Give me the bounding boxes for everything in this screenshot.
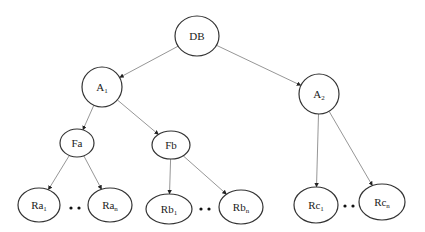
edge-a1-to-fa bbox=[83, 105, 94, 130]
node-rb1: Rb1 bbox=[146, 194, 192, 224]
ellipsis-dot bbox=[351, 204, 354, 207]
node-ra1: Ra1 bbox=[18, 188, 60, 222]
node-rc1: Rc1 bbox=[294, 187, 338, 223]
edge-fb-to-rb1 bbox=[170, 159, 171, 194]
node-db: DB bbox=[175, 16, 219, 56]
node-label: Fa bbox=[72, 137, 83, 149]
node-a1: A1 bbox=[82, 67, 122, 107]
ellipsis-dot bbox=[343, 204, 346, 207]
edge-a1-to-fb bbox=[117, 100, 158, 135]
node-label: DB bbox=[189, 30, 204, 42]
edge-fa-to-ran bbox=[84, 156, 102, 190]
node-fb: Fb bbox=[152, 131, 190, 159]
ellipsis-dot bbox=[69, 206, 72, 209]
edge-a2-to-rcn bbox=[329, 111, 372, 185]
nodes-layer: DBA1A2FaFbRa1RanRb1RbnRc1Rcn bbox=[18, 16, 405, 224]
edge-a2-to-rc1 bbox=[317, 114, 319, 187]
node-rbn: Rbn bbox=[219, 190, 263, 224]
ellipsis-dot bbox=[77, 206, 80, 209]
node-label: Fb bbox=[165, 139, 177, 151]
edge-db-to-a2 bbox=[217, 45, 301, 85]
tree-diagram: DBA1A2FaFbRa1RanRb1RbnRc1Rcn bbox=[0, 0, 425, 232]
node-ran: Ran bbox=[88, 188, 132, 222]
node-a2: A2 bbox=[299, 74, 339, 114]
edge-db-to-a1 bbox=[120, 46, 179, 77]
node-rcn: Rcn bbox=[359, 184, 405, 220]
edge-fa-to-ra1 bbox=[48, 156, 69, 190]
node-fa: Fa bbox=[60, 129, 94, 157]
ellipsis-dot bbox=[199, 207, 202, 210]
edge-fb-to-rbn bbox=[183, 156, 226, 194]
ellipsis-dot bbox=[207, 207, 210, 210]
